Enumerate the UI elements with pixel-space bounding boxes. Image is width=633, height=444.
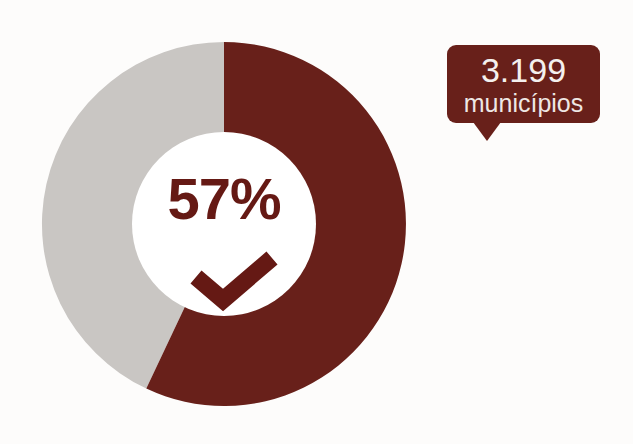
callout-label: municípios xyxy=(447,89,600,117)
donut-infographic: 57% 3.199 municípios xyxy=(0,0,633,444)
callout-value: 3.199 xyxy=(447,51,600,89)
callout-tail-icon xyxy=(473,122,501,141)
callout-bubble[interactable]: 3.199 municípios xyxy=(447,45,600,123)
